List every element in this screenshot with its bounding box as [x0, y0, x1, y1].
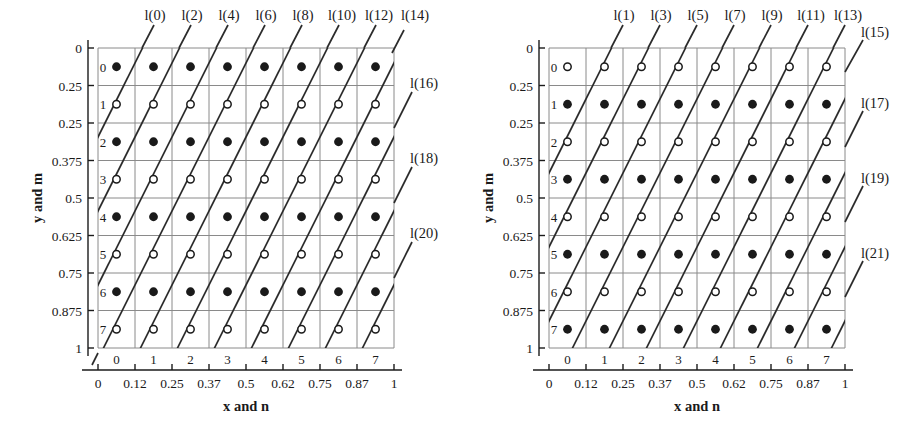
marker-filled [334, 137, 343, 146]
marker-filled [637, 250, 646, 259]
marker-filled [748, 100, 757, 109]
m-index-label: 4 [100, 210, 107, 225]
n-index-label: 6 [786, 352, 793, 367]
line-label: l(6) [256, 7, 277, 24]
diagonal-line-leaders-top [611, 25, 845, 48]
y-axis-spine [88, 40, 94, 356]
y-tick-label: 0 [526, 41, 533, 56]
line-label: l(8) [293, 7, 314, 24]
y-tick-label: 0.5 [65, 191, 82, 206]
m-index-label: 3 [551, 172, 558, 187]
line-label: l(19) [861, 170, 889, 187]
marker-hollow [786, 138, 793, 145]
x-axis-title: x and n [223, 398, 269, 414]
y-tick-label: 0.375 [52, 154, 83, 169]
marker-filled [785, 325, 794, 334]
line-label: l(2) [182, 7, 203, 24]
marker-hollow [150, 101, 157, 108]
marker-filled [785, 175, 794, 184]
marker-filled [822, 325, 831, 334]
y-tick-labels: 0 0.25 0.25 0.375 0.5 0.625 0.75 0.875 1 [503, 41, 534, 356]
marker-hollow [113, 101, 120, 108]
line-label: l(1) [614, 7, 635, 24]
marker-filled [785, 100, 794, 109]
n-index-label: 4 [261, 352, 268, 367]
y-tick-label: 0.75 [58, 266, 82, 281]
marker-hollow [372, 101, 379, 108]
marker-filled [637, 325, 646, 334]
x-tick-labels: 0 0.12 0.25 0.37 0.5 0.62 0.75 0.87 1 [95, 376, 398, 391]
x-tick-label: 0.37 [197, 376, 221, 391]
line-label: l(5) [688, 7, 709, 24]
marker-filled [112, 212, 121, 221]
x-tick-label: 0.75 [759, 376, 783, 391]
line-label: l(0) [145, 7, 166, 24]
marker-filled [600, 175, 609, 184]
marker-filled [600, 250, 609, 259]
y-tick-label: 1 [75, 341, 82, 356]
diagonal-line-leaders-bottomleft [92, 353, 98, 365]
marker-filled [822, 175, 831, 184]
marker-filled [149, 287, 158, 296]
x-tick-label: 0.62 [722, 376, 746, 391]
marker-filled [112, 287, 121, 296]
figure-container: 0 0.25 0.25 0.375 0.5 0.625 0.75 0.875 1… [0, 0, 903, 425]
m-index-label: 4 [551, 210, 558, 225]
y-tick-label: 0.25 [58, 79, 82, 94]
marker-filled [674, 325, 683, 334]
marker-filled [711, 100, 720, 109]
x-tick-label: 0.12 [574, 376, 598, 391]
marker-hollow [638, 288, 645, 295]
marker-filled [371, 137, 380, 146]
marker-hollow [564, 63, 571, 70]
marker-filled [186, 212, 195, 221]
line-label: l(18) [410, 150, 438, 167]
x-tick-labels: 0 0.12 0.25 0.37 0.5 0.62 0.75 0.87 1 [546, 376, 849, 391]
marker-filled [371, 287, 380, 296]
marker-hollow [712, 138, 719, 145]
x-tick-label: 0 [546, 376, 553, 391]
x-tick-label: 0.25 [160, 376, 184, 391]
marker-hollow [823, 213, 830, 220]
line-label: l(12) [365, 7, 393, 24]
marker-filled [297, 212, 306, 221]
x-axis-title: x and n [674, 398, 720, 414]
marker-hollow [187, 101, 194, 108]
marker-hollow [823, 63, 830, 70]
marker-hollow [335, 101, 342, 108]
marker-filled [223, 212, 232, 221]
line-label: l(13) [834, 7, 862, 24]
marker-filled [223, 137, 232, 146]
n-index-label: 7 [372, 352, 379, 367]
m-index-label: 5 [551, 247, 558, 262]
y-tick-label: 0.875 [52, 304, 83, 319]
line-label: l(17) [861, 95, 889, 112]
n-index-label: 3 [224, 352, 231, 367]
marker-hollow [749, 288, 756, 295]
marker-filled [674, 250, 683, 259]
n-index-label: 2 [187, 352, 194, 367]
marker-filled [563, 325, 572, 334]
marker-hollow [261, 176, 268, 183]
marker-filled [260, 212, 269, 221]
marker-filled [637, 175, 646, 184]
n-index-label: 7 [823, 352, 830, 367]
m-index-label: 5 [100, 247, 107, 262]
marker-hollow [224, 176, 231, 183]
marker-hollow [224, 101, 231, 108]
marker-hollow [113, 251, 120, 258]
m-index-label: 1 [100, 97, 107, 112]
y-tick-label: 1 [526, 341, 533, 356]
y-tick-labels: 0 0.25 0.25 0.375 0.5 0.625 0.75 0.875 1 [52, 41, 83, 356]
n-index-label: 4 [712, 352, 719, 367]
line-label: l(9) [762, 7, 783, 24]
marker-hollow [601, 213, 608, 220]
marker-hollow [298, 326, 305, 333]
marker-filled [186, 287, 195, 296]
marker-hollow [564, 213, 571, 220]
y-tick-label: 0 [75, 41, 82, 56]
marker-hollow [675, 63, 682, 70]
marker-hollow [638, 63, 645, 70]
n-index-label: 6 [335, 352, 342, 367]
x-axis-spine [82, 364, 402, 370]
